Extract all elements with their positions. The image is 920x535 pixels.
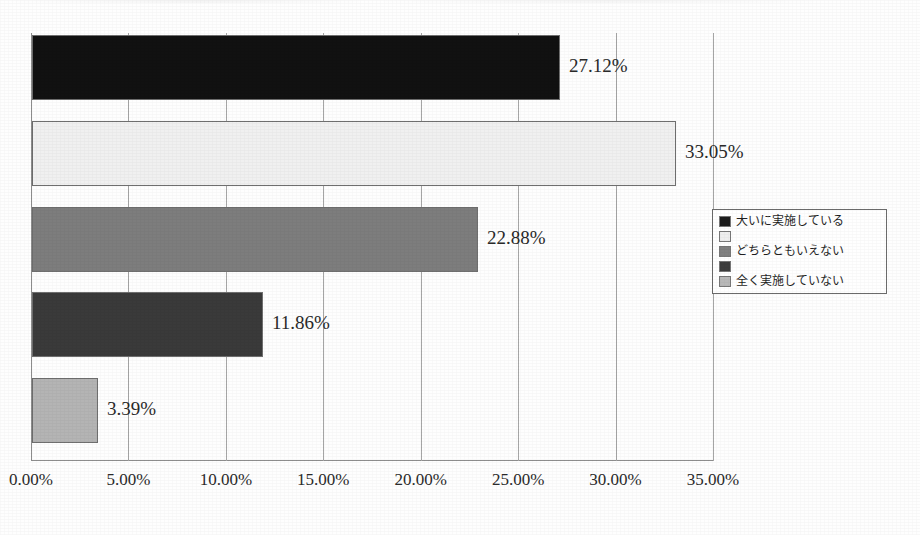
legend-swatch-icon (719, 276, 731, 287)
gridline (616, 33, 617, 461)
x-axis-tick-label: 5.00% (106, 470, 150, 490)
legend-swatch-icon (719, 216, 731, 227)
legend-swatch-icon (719, 261, 731, 272)
bar (32, 207, 478, 272)
x-axis-tick-label: 20.00% (394, 470, 446, 490)
x-axis-tick-label: 25.00% (492, 470, 544, 490)
legend-swatch-icon (719, 246, 731, 257)
bar-value-label: 27.12% (569, 55, 628, 77)
x-axis-tick-label: 0.00% (9, 470, 53, 490)
bar-value-label: 33.05% (685, 141, 744, 163)
legend-item (719, 259, 881, 274)
bar-value-label: 11.86% (272, 312, 330, 334)
legend-item-label: 全く実施していない (736, 275, 844, 288)
bar (32, 35, 560, 100)
legend-item (719, 229, 881, 244)
x-axis-line (31, 460, 713, 461)
legend-item-label: どちらともいえない (736, 245, 844, 258)
bar (32, 378, 98, 443)
bar-value-label: 3.39% (107, 398, 156, 420)
x-axis-tick-label: 15.00% (297, 470, 349, 490)
chart-legend: 大いに実施している どちらともいえない 全く実施していない (712, 209, 887, 294)
bar (32, 292, 263, 357)
x-axis-tick-label: 35.00% (687, 470, 739, 490)
x-axis-tick-label: 30.00% (589, 470, 641, 490)
scan-edge-artifact (0, 0, 920, 3)
legend-item: どちらともいえない (719, 244, 881, 259)
x-axis-tick-label: 10.00% (200, 470, 252, 490)
bar (32, 121, 676, 186)
legend-item: 全く実施していない (719, 274, 881, 289)
legend-item: 大いに実施している (719, 214, 881, 229)
plot-area: 27.12%33.05%22.88%11.86%3.39% (31, 33, 713, 461)
bar-value-label: 22.88% (487, 227, 546, 249)
legend-item-label: 大いに実施している (736, 215, 844, 228)
legend-swatch-icon (719, 231, 731, 242)
chart-page: 27.12%33.05%22.88%11.86%3.39% 0.00%5.00%… (0, 0, 920, 535)
